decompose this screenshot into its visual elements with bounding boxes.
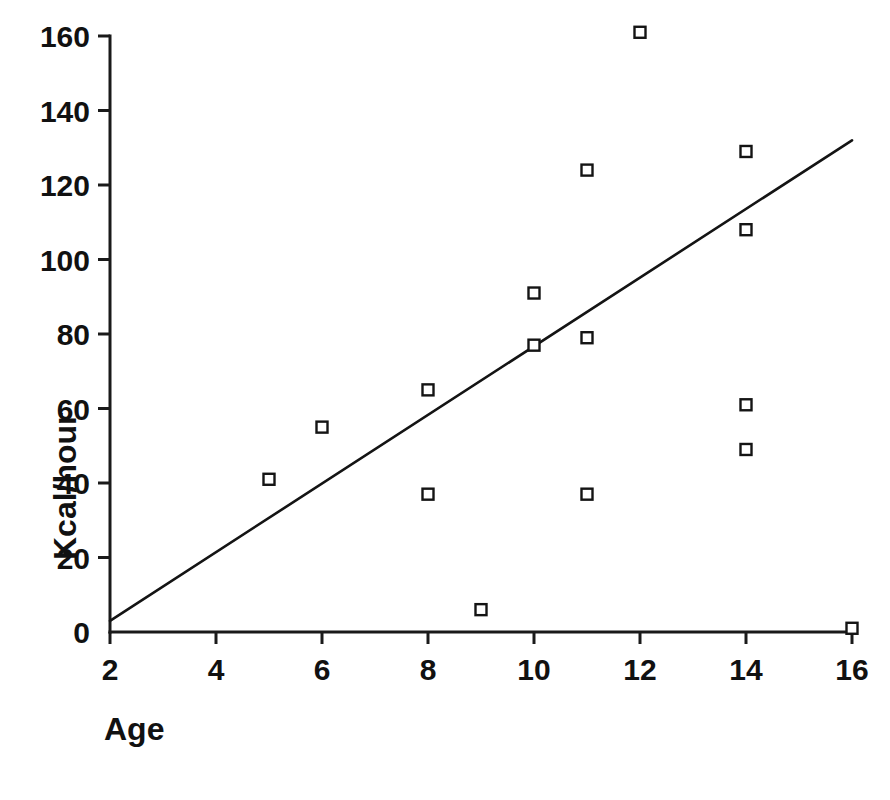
- y-axis-title: Kcal/hour: [47, 412, 83, 560]
- data-point-marker: [847, 623, 858, 634]
- data-point-marker: [741, 224, 752, 235]
- x-tick-label: 6: [314, 653, 331, 686]
- x-tick-label: 8: [420, 653, 437, 686]
- data-point-marker: [317, 422, 328, 433]
- chart-figure: 020406080100120140160 246810121416 Kcal/…: [0, 0, 890, 800]
- x-tick-label: 16: [835, 653, 868, 686]
- x-tick-label: 12: [623, 653, 656, 686]
- x-axis-title: Age: [104, 711, 164, 747]
- data-point-marker: [423, 384, 434, 395]
- x-tick-label: 2: [102, 653, 119, 686]
- data-point-marker: [582, 165, 593, 176]
- data-point-marker: [423, 489, 434, 500]
- data-point-marker: [635, 27, 646, 38]
- regression-trendline: [110, 140, 852, 621]
- x-axis-ticks: 246810121416: [102, 632, 869, 686]
- data-point-marker: [264, 474, 275, 485]
- data-point-marker: [476, 604, 487, 615]
- y-tick-label: 140: [40, 95, 90, 128]
- data-point-marker: [582, 489, 593, 500]
- data-point-marker: [529, 340, 540, 351]
- data-point-marker: [741, 444, 752, 455]
- data-point-marker: [741, 146, 752, 157]
- x-tick-label: 10: [517, 653, 550, 686]
- x-tick-label: 4: [208, 653, 225, 686]
- data-point-marker: [741, 399, 752, 410]
- y-tick-label: 100: [40, 244, 90, 277]
- y-tick-label: 160: [40, 20, 90, 53]
- data-point-marker: [529, 288, 540, 299]
- data-point-marker: [582, 332, 593, 343]
- axes-group: [110, 36, 852, 632]
- scatter-plot-canvas: 020406080100120140160 246810121416 Kcal/…: [0, 0, 890, 800]
- y-tick-label: 120: [40, 169, 90, 202]
- y-tick-label: 0: [73, 616, 90, 649]
- x-tick-label: 14: [729, 653, 763, 686]
- y-tick-label: 80: [57, 318, 90, 351]
